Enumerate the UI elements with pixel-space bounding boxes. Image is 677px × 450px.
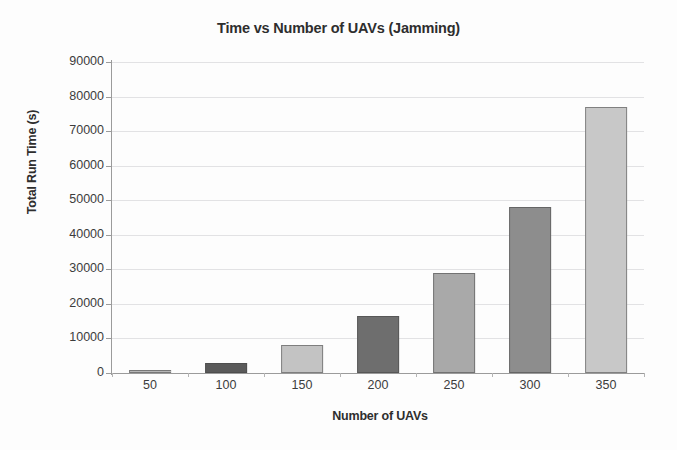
chart-figure: Time vs Number of UAVs (Jamming) Total R…	[0, 0, 677, 450]
bars-layer	[112, 62, 644, 373]
y-axis-tick-mark	[106, 97, 112, 98]
bar-50[interactable]	[129, 370, 171, 373]
bar-slot	[416, 62, 492, 373]
x-axis-tick-label: 300	[492, 378, 568, 392]
y-axis-tick-label: 20000	[12, 296, 104, 310]
y-axis-tick-mark	[106, 269, 112, 270]
bar-300[interactable]	[509, 207, 551, 373]
x-axis-tick-mark	[644, 373, 645, 377]
x-axis-tick-mark	[188, 373, 189, 377]
y-axis-tick-mark	[106, 200, 112, 201]
bar-slot	[112, 62, 188, 373]
bar-100[interactable]	[205, 363, 247, 373]
bar-200[interactable]	[357, 316, 399, 373]
bar-250[interactable]	[433, 273, 475, 373]
gridline	[112, 373, 644, 374]
x-axis-tick-label: 100	[188, 378, 264, 392]
y-axis-tick-label: 10000	[12, 330, 104, 344]
bar-350[interactable]	[585, 107, 627, 373]
chart-title: Time vs Number of UAVs (Jamming)	[0, 20, 677, 36]
x-axis-tick-mark	[112, 373, 113, 377]
x-axis-tick-mark	[492, 373, 493, 377]
y-axis-tick-label: 90000	[12, 54, 104, 68]
y-axis-tick-label: 70000	[12, 123, 104, 137]
y-axis-tick-labels: 9000080000700006000050000400003000020000…	[8, 62, 104, 373]
x-axis-tick-label: 150	[264, 378, 340, 392]
x-axis-tick-label: 350	[568, 378, 644, 392]
y-axis-tick-mark	[106, 304, 112, 305]
y-axis-tick-label: 50000	[12, 192, 104, 206]
y-axis-tick-label: 30000	[12, 261, 104, 275]
x-axis-tick-label: 200	[340, 378, 416, 392]
x-axis-tick-label: 250	[416, 378, 492, 392]
y-axis-tick-label: 0	[12, 365, 104, 379]
y-axis-tick-label: 60000	[12, 158, 104, 172]
bar-slot	[492, 62, 568, 373]
y-axis-tick-mark	[106, 235, 112, 236]
y-axis-tick-mark	[106, 166, 112, 167]
y-axis-tick-mark	[106, 131, 112, 132]
bar-slot	[188, 62, 264, 373]
bar-slot	[568, 62, 644, 373]
x-axis-tick-mark	[568, 373, 569, 377]
bar-150[interactable]	[281, 345, 323, 373]
x-axis-tick-labels: 50100150200250300350	[112, 378, 644, 400]
x-axis-tick-mark	[264, 373, 265, 377]
y-axis-tick-label: 80000	[12, 89, 104, 103]
bar-slot	[340, 62, 416, 373]
bar-slot	[264, 62, 340, 373]
y-axis-tick-label: 40000	[12, 227, 104, 241]
y-axis-tick-mark	[106, 338, 112, 339]
x-axis-title: Number of UAVs	[110, 409, 650, 423]
x-axis-tick-mark	[416, 373, 417, 377]
x-axis-tick-label: 50	[112, 378, 188, 392]
x-axis-tick-mark	[340, 373, 341, 377]
y-axis-tick-mark	[106, 62, 112, 63]
